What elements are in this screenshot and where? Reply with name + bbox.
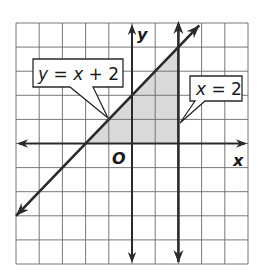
x-axis-label: x — [232, 151, 244, 170]
callout-equation-1: y = x + 2 — [37, 64, 119, 84]
callout-x-equals-2: x = 2 — [180, 76, 242, 123]
coordinate-graph: y x O y = x + 2 x = 2 — [0, 0, 263, 278]
origin-label: O — [112, 149, 126, 168]
y-axis-label: y — [137, 25, 148, 44]
callout-y-equals-x-plus-2: y = x + 2 — [33, 59, 123, 118]
callout-equation-2: x = 2 — [195, 79, 242, 99]
